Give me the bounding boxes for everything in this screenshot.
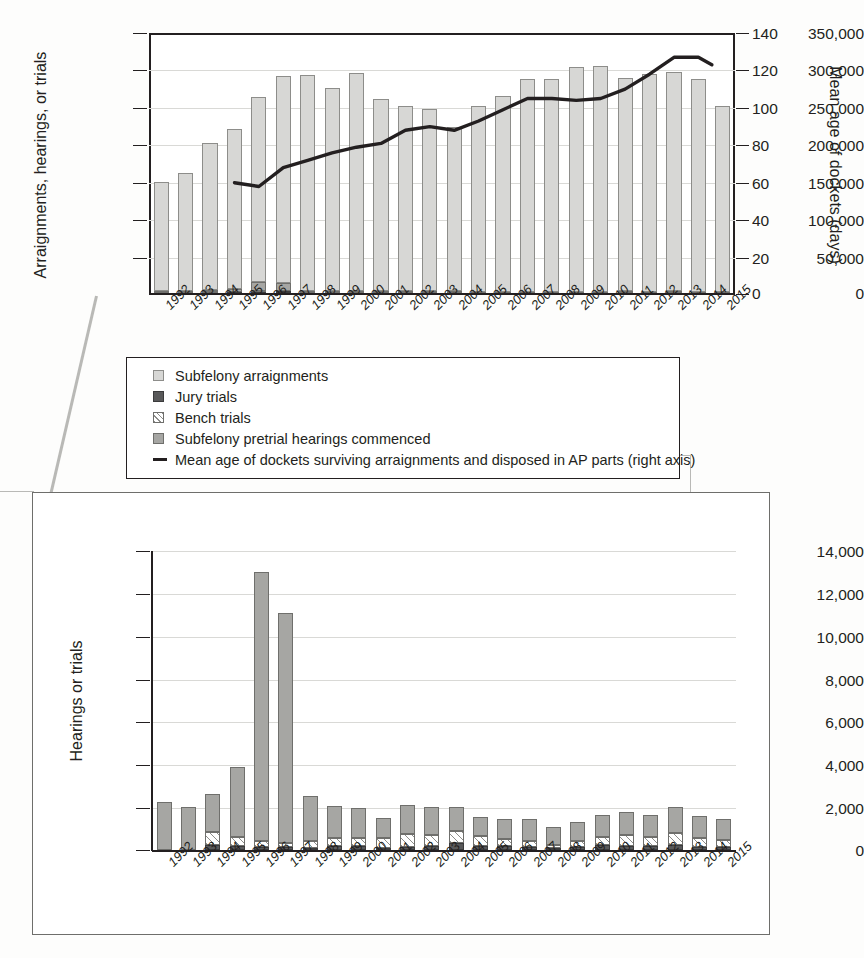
bottom-y-tick: 2,000 [733, 800, 864, 818]
bottom-y-tick: 6,000 [733, 714, 864, 732]
bar-segment [473, 817, 488, 836]
bar-segment [595, 815, 610, 837]
bar-segment [424, 807, 439, 835]
bar-segment [157, 802, 172, 850]
bar-segment [522, 819, 537, 841]
bar-segment [230, 767, 245, 837]
bar-segment [668, 807, 683, 833]
bottom-y-tick: 10,000 [733, 629, 864, 647]
bar-segment [303, 796, 318, 842]
bottom-y-tick: 4,000 [733, 757, 864, 775]
bar-segment [643, 815, 658, 837]
bar-segment [254, 572, 269, 841]
bottom-y-tick: 8,000 [733, 672, 864, 690]
bar-1996 [254, 572, 269, 850]
bar-segment [449, 807, 464, 830]
bar-segment [278, 613, 293, 844]
bottom-y-tick: 12,000 [733, 586, 864, 604]
bar-segment [205, 794, 220, 831]
figure-root: Arraignments, hearings, or trials Mean a… [0, 0, 864, 958]
bottom-chart-x-labels: 1992199319941995199619971998199920002001… [152, 856, 736, 896]
bar-segment [692, 816, 707, 838]
bottom-y-tick: 14,000 [733, 543, 864, 561]
bar-segment [716, 819, 731, 840]
bar-segment [400, 805, 415, 834]
bar-1997 [278, 613, 293, 850]
bar-segment [327, 806, 342, 838]
bar-1995 [230, 767, 245, 850]
bar-1992 [157, 802, 172, 850]
bar-segment [619, 812, 634, 835]
bar-segment [351, 808, 366, 838]
bar-segment [376, 818, 391, 838]
bar-segment [497, 819, 512, 839]
bottom-chart-bars [152, 551, 736, 850]
